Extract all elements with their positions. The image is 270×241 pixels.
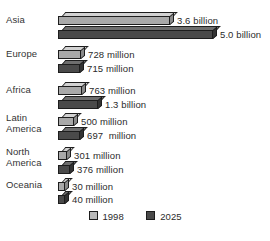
legend-swatch-2025-icon bbox=[146, 211, 155, 220]
bar-side-face bbox=[81, 46, 85, 59]
bar-front-face bbox=[58, 86, 82, 95]
bar-front-face bbox=[58, 64, 80, 73]
legend-item-2025: 2025 bbox=[146, 210, 181, 222]
bar-value-label: 715 million bbox=[87, 63, 134, 74]
bar-block bbox=[58, 147, 67, 156]
bar-side-face bbox=[82, 82, 86, 95]
category-label: Africa bbox=[6, 84, 31, 95]
bar-value-label: 697 million bbox=[87, 130, 136, 141]
bar-value-label: 5.0 billion bbox=[220, 29, 261, 40]
bar-1998 bbox=[58, 147, 67, 161]
bar-block bbox=[58, 178, 65, 187]
bar-block bbox=[58, 26, 213, 35]
legend-label-2025: 2025 bbox=[160, 211, 181, 222]
bar-side-face bbox=[213, 26, 217, 39]
bar-front-face bbox=[58, 195, 65, 204]
bar-block bbox=[58, 191, 65, 200]
bar-1998 bbox=[58, 178, 65, 192]
category-label: Oceania bbox=[6, 179, 42, 190]
bar-block bbox=[58, 46, 81, 55]
bar-value-label: 376 million bbox=[77, 164, 124, 175]
bar-2025 bbox=[58, 191, 65, 205]
bar-value-label: 40 million bbox=[72, 194, 113, 205]
category-label: Asia bbox=[6, 14, 25, 25]
bar-value-label: 3.6 billion bbox=[177, 15, 218, 26]
bar-2025 bbox=[58, 60, 80, 74]
bar-value-label: 500 million bbox=[81, 116, 128, 127]
bar-value-label: 301 million bbox=[74, 150, 121, 161]
bar-side-face bbox=[67, 147, 71, 160]
bar-side-face bbox=[170, 12, 174, 25]
chart-legend: 1998 2025 bbox=[0, 210, 270, 222]
bar-front-face bbox=[58, 165, 70, 174]
bar-block bbox=[58, 60, 80, 69]
bar-side-face bbox=[65, 191, 69, 204]
bar-side-face bbox=[74, 113, 78, 126]
bar-1998 bbox=[58, 82, 82, 96]
bar-front-face bbox=[58, 131, 80, 140]
legend-item-1998: 1998 bbox=[89, 210, 124, 222]
bar-front-face bbox=[58, 50, 81, 59]
bar-front-face bbox=[58, 100, 98, 109]
bar-1998 bbox=[58, 113, 74, 127]
bar-front-face bbox=[58, 151, 67, 160]
bar-2025 bbox=[58, 26, 213, 40]
category-label: North America bbox=[6, 146, 42, 168]
legend-label-1998: 1998 bbox=[103, 211, 124, 222]
legend-swatch-1998-icon bbox=[89, 211, 98, 220]
population-bar-chart: Asia3.6 billion5.0 billionEurope728 mill… bbox=[0, 0, 270, 241]
bar-front-face bbox=[58, 182, 65, 191]
bar-front-face bbox=[58, 30, 213, 39]
bar-side-face bbox=[80, 127, 84, 140]
bar-side-face bbox=[98, 96, 102, 109]
bar-2025 bbox=[58, 161, 70, 175]
bar-side-face bbox=[65, 178, 69, 191]
category-label: Europe bbox=[6, 48, 37, 59]
bar-side-face bbox=[80, 60, 84, 73]
bar-block bbox=[58, 127, 80, 136]
bar-1998 bbox=[58, 12, 170, 26]
bar-block bbox=[58, 161, 70, 170]
bar-block bbox=[58, 82, 82, 91]
bar-2025 bbox=[58, 96, 98, 110]
bar-block bbox=[58, 12, 170, 21]
bar-value-label: 1.3 billion bbox=[105, 99, 146, 110]
bar-value-label: 728 million bbox=[88, 49, 135, 60]
bar-front-face bbox=[58, 16, 170, 25]
bar-front-face bbox=[58, 117, 74, 126]
bar-block bbox=[58, 96, 98, 105]
category-label: Latin America bbox=[6, 112, 42, 134]
bar-side-face bbox=[70, 161, 74, 174]
bar-value-label: 763 million bbox=[89, 85, 136, 96]
bar-value-label: 30 million bbox=[72, 181, 113, 192]
bar-2025 bbox=[58, 127, 80, 141]
bar-1998 bbox=[58, 46, 81, 60]
bar-block bbox=[58, 113, 74, 122]
